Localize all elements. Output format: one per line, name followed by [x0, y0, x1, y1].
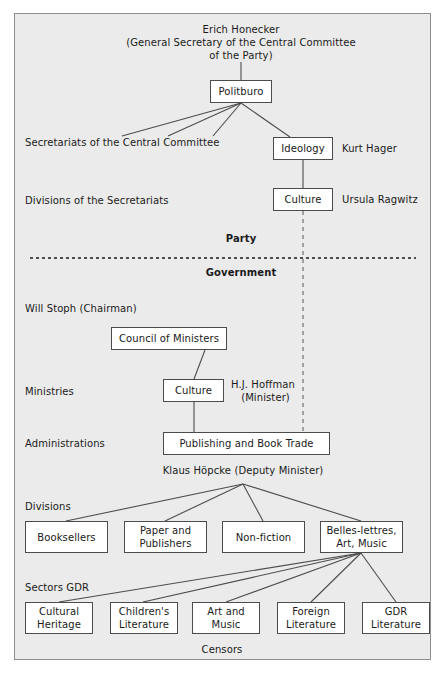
- label-ministries: Ministries: [25, 385, 74, 398]
- label-minister-role: (Minister): [231, 391, 300, 404]
- row-label-divisions: Divisions: [25, 500, 71, 513]
- label-secretariats-of-central-committee: Secretariats of the Central Committee: [25, 136, 220, 149]
- label-divisions-of-secretariats: Divisions of the Secretariats: [25, 194, 169, 207]
- node-sector-foreign-literature[interactable]: ForeignLiterature: [277, 602, 345, 634]
- label-ursula-ragwitz: Ursula Ragwitz: [342, 193, 418, 206]
- node-sector-art-and-music[interactable]: Art andMusic: [192, 602, 260, 634]
- label-minister-name: H.J. Hoffman: [231, 378, 295, 391]
- org-chart-figure: Erich Honecker (General Secretary of the…: [0, 0, 445, 676]
- label-kurt-hager: Kurt Hager: [342, 142, 397, 155]
- node-sector-cultural-heritage[interactable]: CulturalHeritage: [25, 602, 93, 634]
- footer-label-censors: Censors: [152, 643, 292, 656]
- node-council-of-ministers[interactable]: Council of Ministers: [111, 327, 227, 350]
- leader-title-line-3: of the Party): [141, 49, 341, 62]
- node-culture-party[interactable]: Culture: [273, 188, 333, 211]
- label-klaus-hopcke-deputy-minister: Klaus Höpcke (Deputy Minister): [153, 464, 333, 477]
- node-publishing-and-book-trade[interactable]: Publishing and Book Trade: [163, 432, 330, 455]
- node-division-belles-lettres-art-music[interactable]: Belles-lettres,Art, Music: [320, 521, 403, 553]
- node-division-non-fiction[interactable]: Non-fiction: [222, 521, 305, 553]
- node-ideology[interactable]: Ideology: [273, 137, 333, 160]
- row-label-sectors-gdr: Sectors GDR: [25, 581, 89, 594]
- node-division-paper-and-publishers[interactable]: Paper andPublishers: [124, 521, 207, 553]
- label-will-stoph-chairman: Will Stoph (Chairman): [25, 302, 137, 315]
- leader-title-line-2: (General Secretary of the Central Commit…: [106, 36, 376, 49]
- node-politburo[interactable]: Politburo: [210, 80, 272, 103]
- leader-title-line-1: Erich Honecker: [141, 23, 341, 36]
- section-label-government: Government: [161, 266, 321, 279]
- section-label-party: Party: [171, 232, 311, 245]
- label-administrations: Administrations: [25, 437, 105, 450]
- node-sector-gdr-literature[interactable]: GDRLiterature: [362, 602, 430, 634]
- node-sector-childrens-literature[interactable]: Children'sLiterature: [110, 602, 178, 634]
- node-division-booksellers[interactable]: Booksellers: [25, 521, 108, 553]
- node-culture-ministry[interactable]: Culture: [163, 379, 224, 402]
